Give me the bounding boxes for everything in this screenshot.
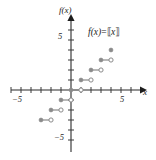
closed-endpoint-dot xyxy=(49,108,53,112)
floor-bracket-close-icon: ⟧ xyxy=(115,27,120,37)
x-tick-label-positive-five: 5 xyxy=(120,95,124,104)
equation-annotation: f(x)=⟦x⟧ xyxy=(88,28,120,38)
y-tick-label-positive-five: 5 xyxy=(58,32,62,41)
equation-lhs: f(x) xyxy=(88,27,101,37)
closed-endpoint-dot xyxy=(59,98,63,102)
open-endpoint-dot xyxy=(109,58,113,62)
open-endpoint-dot xyxy=(79,88,83,92)
plot-canvas xyxy=(0,0,156,160)
open-endpoint-dot xyxy=(89,78,93,82)
closed-endpoint-dot xyxy=(99,58,103,62)
open-endpoint-dot xyxy=(49,118,53,122)
step-function-curve xyxy=(39,48,113,122)
y-axis-arrow-icon xyxy=(67,14,74,21)
open-endpoint-dot xyxy=(99,68,103,72)
closed-endpoint-dot xyxy=(89,68,93,72)
closed-endpoint-dot xyxy=(79,78,83,82)
x-axis-label: x xyxy=(143,88,147,97)
step-function-figure: x f(x) −5 5 5 −5 f(x)=⟦x⟧ xyxy=(0,0,156,160)
y-axis-label: f(x) xyxy=(59,6,72,15)
closed-endpoint-dot xyxy=(69,88,73,92)
closed-endpoint-dot xyxy=(39,118,43,122)
x-tick-label-negative-five: −5 xyxy=(12,95,22,104)
closed-endpoint-dot xyxy=(109,48,113,52)
open-endpoint-dot xyxy=(59,108,63,112)
y-tick-label-negative-five: −5 xyxy=(54,133,64,142)
open-endpoint-dot xyxy=(69,98,73,102)
